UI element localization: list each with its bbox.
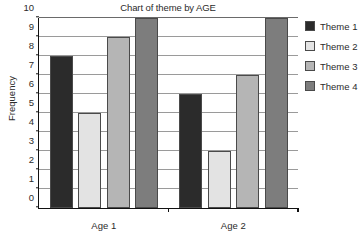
gridline	[39, 74, 298, 75]
legend-item-label: Theme 2	[320, 41, 358, 52]
y-tick-label: 3	[29, 135, 34, 146]
y-tick-label: 0	[29, 192, 34, 203]
bar	[135, 18, 158, 208]
legend-swatch-icon	[305, 21, 315, 31]
y-tick-mark	[36, 92, 39, 93]
x-tick-mark	[168, 208, 169, 212]
y-tick-mark	[36, 149, 39, 150]
y-tick-label: 2	[29, 154, 34, 165]
gridline	[39, 17, 298, 18]
gridline	[39, 55, 298, 56]
legend-item[interactable]: Theme 4	[305, 76, 355, 96]
y-tick-mark	[36, 73, 39, 74]
chart-title: Chart of theme by AGE	[38, 2, 298, 13]
legend-item-label: Theme 3	[320, 61, 358, 72]
y-tick-label: 4	[29, 116, 34, 127]
gridline	[39, 93, 298, 94]
legend-swatch-icon	[305, 81, 315, 91]
y-tick-mark	[36, 111, 39, 112]
y-tick-mark	[36, 35, 39, 36]
legend-item[interactable]: Theme 3	[305, 56, 355, 76]
y-tick-mark	[36, 54, 39, 55]
y-tick-label: 10	[23, 2, 34, 13]
y-tick-label: 1	[29, 173, 34, 184]
y-tick-mark	[36, 206, 39, 207]
y-tick-label: 5	[29, 97, 34, 108]
legend-item-label: Theme 4	[320, 81, 358, 92]
y-axis-title: Frequency	[6, 59, 17, 139]
y-tick-label: 7	[29, 59, 34, 70]
bar	[179, 94, 202, 208]
y-tick-mark	[36, 16, 39, 17]
gridline	[39, 36, 298, 37]
legend-swatch-icon	[305, 61, 315, 71]
y-tick-mark	[36, 130, 39, 131]
y-tick-label: 9	[29, 21, 34, 32]
legend-item[interactable]: Theme 1	[305, 16, 355, 36]
y-tick-label: 6	[29, 78, 34, 89]
y-tick-mark	[36, 168, 39, 169]
bar	[50, 56, 73, 208]
plot-area: 012345678910 Age 1Age 2	[38, 18, 298, 209]
legend-item[interactable]: Theme 2	[305, 36, 355, 56]
x-group-label: Age 2	[221, 220, 246, 231]
chart-legend: Theme 1Theme 2Theme 3Theme 4	[305, 16, 355, 96]
y-tick-mark	[36, 187, 39, 188]
y-tick-label: 8	[29, 40, 34, 51]
bar	[208, 151, 231, 208]
bar	[265, 18, 288, 208]
bar	[78, 113, 101, 208]
bar	[107, 37, 130, 208]
legend-swatch-icon	[305, 41, 315, 51]
x-group-label: Age 1	[91, 220, 116, 231]
bar	[236, 75, 259, 208]
legend-item-label: Theme 1	[320, 21, 358, 32]
x-tick-mark	[297, 208, 298, 212]
